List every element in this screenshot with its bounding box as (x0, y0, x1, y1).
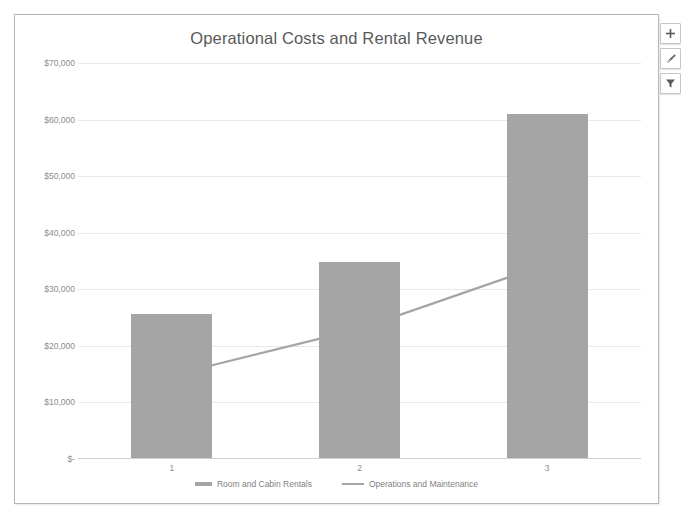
chart-title: Operational Costs and Rental Revenue (15, 29, 658, 48)
chart-elements-button[interactable] (660, 23, 681, 44)
x-axis: 123 (78, 461, 641, 479)
legend-bar-swatch-icon (195, 482, 212, 486)
chart-filters-button[interactable] (660, 73, 681, 94)
y-axis-tick-label: $50,000 (23, 171, 75, 181)
funnel-icon (665, 78, 676, 89)
y-axis-tick-label: $70,000 (23, 58, 75, 68)
legend-line-swatch-icon (342, 483, 364, 485)
x-axis-tick-label: 3 (517, 463, 577, 473)
chart-side-buttons[interactable] (660, 23, 681, 94)
y-axis-tick-label: $10,000 (23, 397, 75, 407)
legend-label: Operations and Maintenance (369, 479, 478, 489)
x-axis-tick-label: 2 (330, 463, 390, 473)
plus-icon (665, 28, 676, 39)
chart-styles-button[interactable] (660, 48, 681, 69)
legend-item[interactable]: Operations and Maintenance (342, 479, 478, 489)
y-axis-tick-label: $- (23, 454, 75, 464)
plot-area (78, 63, 641, 459)
legend-item[interactable]: Room and Cabin Rentals (195, 479, 312, 489)
x-axis-baseline (78, 458, 641, 459)
operations-and-maintenance-line (172, 264, 547, 375)
y-axis-tick-label: $30,000 (23, 284, 75, 294)
y-axis: $70,000$60,000$50,000$40,000$30,000$20,0… (20, 63, 75, 459)
x-axis-tick-label: 1 (142, 463, 202, 473)
chart-legend: Room and Cabin RentalsOperations and Mai… (15, 479, 658, 489)
y-axis-tick-label: $20,000 (23, 341, 75, 351)
y-axis-tick-label: $60,000 (23, 115, 75, 125)
legend-label: Room and Cabin Rentals (217, 479, 312, 489)
paintbrush-icon (665, 53, 677, 65)
chart-container[interactable]: Operational Costs and Rental Revenue $70… (14, 14, 659, 504)
line-series-overlay (78, 63, 641, 459)
y-axis-tick-label: $40,000 (23, 228, 75, 238)
